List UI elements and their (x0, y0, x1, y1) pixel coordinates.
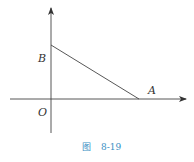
caption-number: 8-19 (101, 142, 121, 152)
label-a: A (147, 84, 156, 97)
coordinate-diagram: B O A 图 8-19 (0, 0, 194, 162)
label-o: O (38, 106, 47, 119)
label-b: B (37, 52, 46, 65)
segment-ab (51, 45, 139, 99)
diagram-canvas: B O A 图 8-19 (0, 0, 194, 162)
caption-prefix: 图 (82, 142, 91, 152)
